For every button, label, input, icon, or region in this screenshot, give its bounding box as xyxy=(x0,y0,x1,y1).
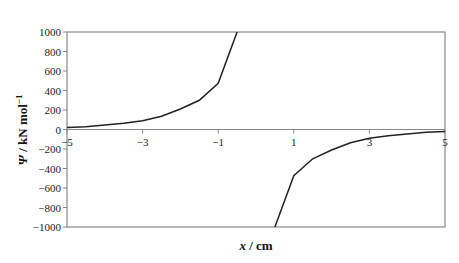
x-tick-label: 5 xyxy=(442,136,448,148)
series-line xyxy=(275,131,445,227)
x-tick-label: −1 xyxy=(212,136,224,148)
y-tick-label: 0 xyxy=(56,124,62,136)
y-tick-label: −800 xyxy=(38,202,61,214)
x-tick-label: 1 xyxy=(291,136,297,148)
line-chart: 10008006004002000−200−400−600−800−1000 −… xyxy=(0,0,459,263)
y-tick-label: −400 xyxy=(38,163,61,175)
y-tick-label: 1000 xyxy=(39,26,62,38)
x-axis-ticks: −5−3−1135 xyxy=(61,130,448,148)
y-tick-label: 400 xyxy=(45,85,62,97)
y-tick-label: −600 xyxy=(38,182,61,194)
y-axis-ticks: 10008006004002000−200−400−600−800−1000 xyxy=(33,26,67,233)
x-axis-title: x / cm xyxy=(238,238,272,253)
x-tick-label: −5 xyxy=(61,136,73,148)
y-tick-label: 600 xyxy=(45,65,62,77)
series-line xyxy=(67,32,237,128)
y-tick-label: 200 xyxy=(45,104,62,116)
y-axis-title: Ψ / kN mol−1 xyxy=(14,94,30,165)
x-tick-label: −3 xyxy=(137,136,149,148)
y-tick-label: −200 xyxy=(38,143,61,155)
y-tick-label: 800 xyxy=(45,46,62,58)
y-tick-label: −1000 xyxy=(33,221,62,233)
